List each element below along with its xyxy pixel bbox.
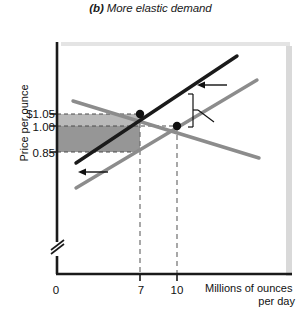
- shaded-region-upper: [57, 114, 140, 126]
- chart-svg: [0, 0, 301, 314]
- equilibrium-point-no-tax: [173, 122, 181, 130]
- panel-shadow-top: [61, 42, 290, 46]
- axis-break-icon: [51, 240, 64, 256]
- figure-panel: (b) More elastic demand Price per ounce …: [0, 0, 301, 314]
- equilibrium-point-with-tax: [136, 110, 144, 118]
- panel-shadow-right: [286, 46, 292, 276]
